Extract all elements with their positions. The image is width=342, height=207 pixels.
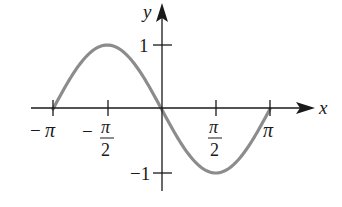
y-tick-1: 1 [139,35,172,56]
y-axis-label: y [141,1,152,22]
x-tick-pi: π [263,100,274,141]
svg-text:2: 2 [101,140,110,160]
function-graph: x y − π − π 2 π 2 π 1 −1 [0,0,342,207]
x-axis-label: x [318,97,328,118]
x-tick-neg-half-pi: − π 2 [82,100,114,160]
svg-text:−1: −1 [130,163,150,184]
svg-text:2: 2 [210,140,219,160]
svg-text:−: − [82,121,93,142]
svg-text:π: π [101,117,111,137]
svg-text:π: π [45,119,56,141]
y-tick-neg-1: −1 [130,163,172,184]
svg-text:1: 1 [139,35,149,56]
svg-text:π: π [209,117,219,137]
svg-text:−: − [30,120,41,141]
x-tick-half-pi: π 2 [208,100,222,160]
svg-text:π: π [263,119,274,141]
x-tick-neg-pi: − π [30,100,56,141]
